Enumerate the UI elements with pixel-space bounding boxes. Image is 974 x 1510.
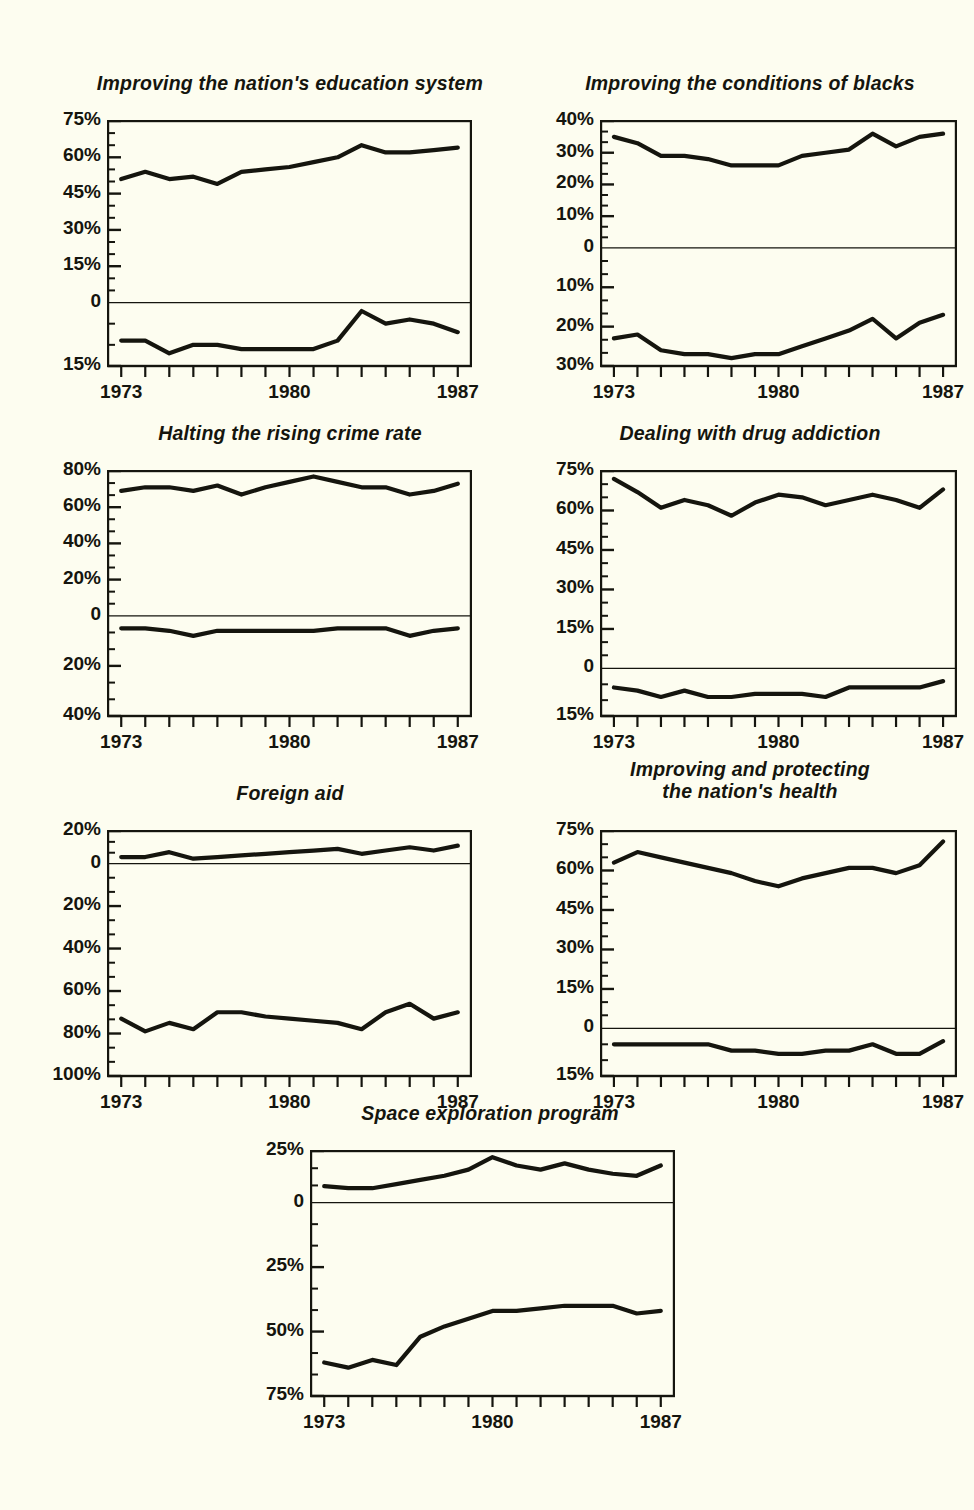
y-axis-label: 75%: [212, 1383, 304, 1405]
y-axis-label: 30%: [502, 140, 594, 162]
x-axis-label: 1980: [734, 731, 824, 753]
data-line-too-little: [614, 842, 943, 887]
chart-title-2: Improving the conditions of blacks: [520, 72, 974, 94]
plot-frame: [108, 121, 471, 366]
data-line-too-much: [121, 1004, 458, 1032]
y-axis-label: 15%: [9, 353, 101, 375]
y-axis-label: 30%: [502, 353, 594, 375]
chart-title-6: Improving and protecting the nation's he…: [520, 758, 974, 803]
x-axis-label: 1980: [245, 1091, 335, 1113]
x-axis-label: 1987: [898, 381, 974, 403]
chart-panel-5: Foreign aid020%20%40%60%80%100%197319801…: [0, 0, 974, 1510]
data-line-too-little: [121, 145, 458, 184]
y-axis-label: 50%: [212, 1319, 304, 1341]
chart-title-4: Dealing with drug addiction: [520, 422, 974, 444]
y-axis-label: 0: [9, 851, 101, 873]
data-line-too-much: [324, 1306, 661, 1368]
data-line-too-much: [121, 628, 458, 636]
data-line-too-much: [121, 311, 458, 353]
y-axis-label: 80%: [9, 458, 101, 480]
y-axis-label: 25%: [212, 1138, 304, 1160]
data-line-too-little: [121, 846, 458, 859]
y-axis-label: 30%: [502, 576, 594, 598]
y-axis-label: 20%: [9, 818, 101, 840]
plot-area-4: [600, 470, 957, 739]
plot-area-3: [107, 470, 472, 739]
y-axis-label: 25%: [212, 1254, 304, 1276]
chart-title-7: Space exploration program: [230, 1102, 750, 1124]
x-axis-label: 1973: [569, 381, 659, 403]
y-axis-label: 80%: [9, 1021, 101, 1043]
data-line-too-much: [614, 1041, 943, 1054]
plot-frame: [108, 471, 471, 716]
chart-panel-7: Space exploration program025%25%50%75%19…: [0, 0, 974, 1510]
x-axis-label: 1987: [413, 381, 503, 403]
y-axis-label: 60%: [502, 857, 594, 879]
y-axis-label: 15%: [9, 253, 101, 275]
x-axis-label: 1980: [245, 731, 335, 753]
x-axis-label: 1987: [413, 731, 503, 753]
y-axis-label: 0: [502, 1015, 594, 1037]
x-axis-label: 1973: [569, 1091, 659, 1113]
y-axis-label: 15%: [502, 616, 594, 638]
x-axis-label: 1987: [616, 1411, 706, 1433]
x-axis-label: 1980: [734, 381, 824, 403]
x-axis-label: 1987: [413, 1091, 503, 1113]
plot-frame: [601, 831, 956, 1076]
chart-panel-3: Halting the rising crime rate020%40%60%8…: [0, 0, 974, 1510]
data-line-too-much: [614, 315, 943, 358]
y-axis-label: 40%: [9, 703, 101, 725]
y-axis-label: 0: [502, 655, 594, 677]
figure-sheet: Improving the nation's education system0…: [0, 0, 974, 1510]
y-axis-label: 10%: [502, 203, 594, 225]
y-axis-label: 30%: [502, 936, 594, 958]
y-axis-label: 100%: [9, 1063, 101, 1085]
y-axis-label: 40%: [502, 108, 594, 130]
y-axis-label: 40%: [9, 936, 101, 958]
data-line-too-much: [614, 681, 943, 697]
plot-frame: [601, 121, 956, 366]
plot-frame: [601, 471, 956, 716]
y-axis-label: 10%: [502, 274, 594, 296]
x-axis-label: 1973: [76, 381, 166, 403]
plot-frame: [108, 831, 471, 1076]
y-axis-label: 60%: [9, 494, 101, 516]
x-axis-label: 1987: [898, 731, 974, 753]
y-axis-label: 0: [212, 1190, 304, 1212]
y-axis-label: 15%: [502, 976, 594, 998]
y-axis-label: 20%: [502, 314, 594, 336]
plot-frame: [311, 1151, 674, 1396]
plot-area-2: [600, 120, 957, 389]
y-axis-label: 20%: [9, 893, 101, 915]
x-axis-label: 1980: [734, 1091, 824, 1113]
y-axis-label: 0: [9, 603, 101, 625]
y-axis-label: 20%: [9, 653, 101, 675]
x-axis-label: 1973: [76, 1091, 166, 1113]
chart-title-1: Improving the nation's education system: [30, 72, 550, 94]
y-axis-label: 40%: [9, 530, 101, 552]
x-axis-label: 1973: [279, 1411, 369, 1433]
y-axis-label: 45%: [502, 537, 594, 559]
y-axis-label: 75%: [502, 458, 594, 480]
plot-area-6: [600, 830, 957, 1099]
y-axis-label: 30%: [9, 217, 101, 239]
y-axis-label: 0: [502, 235, 594, 257]
plot-area-5: [107, 830, 472, 1099]
y-axis-label: 20%: [9, 567, 101, 589]
y-axis-label: 60%: [502, 497, 594, 519]
y-axis-label: 20%: [502, 171, 594, 193]
y-axis-label: 15%: [502, 1063, 594, 1085]
data-line-too-little: [614, 134, 943, 166]
y-axis-label: 15%: [502, 703, 594, 725]
y-axis-label: 45%: [9, 181, 101, 203]
x-axis-label: 1980: [448, 1411, 538, 1433]
y-axis-label: 75%: [502, 818, 594, 840]
y-axis-label: 75%: [9, 108, 101, 130]
x-axis-label: 1973: [569, 731, 659, 753]
x-axis-label: 1980: [245, 381, 335, 403]
y-axis-label: 0: [9, 290, 101, 312]
data-line-too-little: [121, 476, 458, 494]
data-line-too-little: [324, 1157, 661, 1188]
chart-panel-6: Improving and protecting the nation's he…: [0, 0, 974, 1510]
y-axis-label: 60%: [9, 144, 101, 166]
